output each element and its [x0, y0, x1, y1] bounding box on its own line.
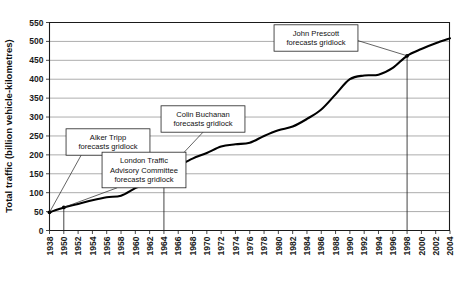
x-tick-label: 1980	[274, 236, 284, 255]
traffic-gridlock-chart: 050100150200250300350400450500550 193819…	[0, 0, 467, 286]
y-tick-label: 100	[29, 188, 43, 198]
leader-line-john-prescott	[358, 41, 407, 56]
x-tick-label: 1994	[374, 236, 384, 255]
annotation-label-john-prescott: forecasts gridlock	[286, 38, 345, 47]
x-tick-label: 2002	[431, 236, 441, 255]
annotation-label-colin-buchanan: forecasts gridlock	[173, 119, 232, 128]
x-tick-label: 1938	[45, 236, 55, 255]
y-tick-label: 450	[29, 55, 43, 65]
x-tick-label: 1970	[202, 236, 212, 255]
y-tick-label: 150	[29, 169, 43, 179]
y-tick-label: 250	[29, 131, 43, 141]
x-tick-label: 1950	[59, 236, 69, 255]
annotation-label-london-traffic-advisory-committee: Advisory Committee	[110, 166, 178, 175]
data-point-alker-tripp	[48, 210, 52, 214]
x-tick-label: 1998	[402, 236, 412, 255]
annotation-label-alker-tripp: Alker Tripp	[90, 133, 126, 142]
x-tick-label: 1966	[173, 236, 183, 255]
x-tick-label: 1990	[345, 236, 355, 255]
x-tick-label: 1956	[102, 236, 112, 255]
x-tick-label: 1958	[116, 236, 126, 255]
y-tick-label: 50	[34, 207, 44, 217]
annotation-label-john-prescott: John Prescott	[293, 29, 340, 38]
gridlines	[46, 23, 450, 231]
x-axis-tick-labels: 1938195019521954195619581960196219641966…	[45, 231, 456, 256]
x-tick-label: 1974	[231, 236, 241, 255]
y-axis-title: Total traffic (billion vehicle-kilometre…	[3, 39, 14, 213]
y-tick-label: 550	[29, 18, 43, 28]
y-tick-label: 200	[29, 150, 43, 160]
annotation-label-london-traffic-advisory-committee: forecasts gridlock	[114, 175, 173, 184]
annotation-boxes: Alker Trippforecasts gridlockLondon Traf…	[66, 25, 358, 188]
x-tick-label: 1986	[316, 236, 326, 255]
annotation-label-colin-buchanan: Colin Buchanan	[176, 110, 230, 119]
x-tick-label: 1962	[145, 236, 155, 255]
x-tick-label: 1954	[88, 236, 98, 255]
chart-svg: 050100150200250300350400450500550 193819…	[0, 0, 467, 286]
y-tick-label: 400	[29, 74, 43, 84]
data-point-london-traffic-advisory-committee	[62, 206, 66, 210]
x-tick-label: 1996	[388, 236, 398, 255]
y-tick-label: 350	[29, 93, 43, 103]
x-tick-label: 1988	[331, 236, 341, 255]
y-axis-tick-labels: 050100150200250300350400450500550	[29, 18, 43, 236]
annotation-label-london-traffic-advisory-committee: London Traffic	[120, 156, 168, 165]
x-tick-label: 1968	[188, 236, 198, 255]
x-tick-label: 1972	[216, 236, 226, 255]
x-tick-label: 1952	[73, 236, 83, 255]
x-tick-label: 1984	[302, 236, 312, 255]
x-tick-label: 1992	[359, 236, 369, 255]
x-tick-label: 1976	[245, 236, 255, 255]
x-tick-label: 2004	[445, 236, 455, 255]
y-tick-label: 500	[29, 36, 43, 46]
x-tick-label: 2000	[417, 236, 427, 255]
x-tick-label: 1978	[259, 236, 269, 255]
x-tick-label: 1964	[159, 236, 169, 255]
y-tick-label: 0	[39, 226, 44, 236]
y-tick-label: 300	[29, 112, 43, 122]
x-tick-label: 1960	[131, 236, 141, 255]
annotation-label-alker-tripp: forecasts gridlock	[78, 142, 137, 151]
x-tick-label: 1982	[288, 236, 298, 255]
